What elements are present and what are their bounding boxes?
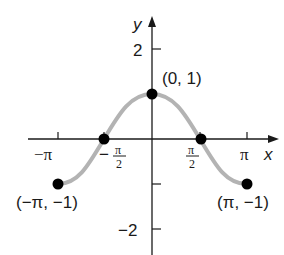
x-axis-arrow-icon: [268, 135, 279, 143]
point-zero: [147, 89, 158, 100]
x-tick-label-neg-half-num: π: [115, 143, 121, 157]
x-tick-label-pi: π: [240, 145, 249, 164]
x-tick-label-half-den: 2: [189, 157, 195, 171]
y-axis-label: y: [132, 15, 143, 34]
point-pi: [242, 179, 253, 190]
y-tick-label-2: 2: [133, 41, 142, 60]
x-tick-label-half-num: π: [188, 143, 194, 157]
x-tick-label-neg-half-den: 2: [116, 157, 122, 171]
x-axis-label: x: [263, 145, 273, 164]
cosine-graph: y x 2 −2 −π π − π 2 π 2 (0, 1) (−π, −1) …: [0, 0, 284, 255]
point-neg-half-pi: [99, 134, 110, 145]
point-label-left: (−π, −1): [16, 193, 78, 212]
point-half-pi: [196, 134, 207, 145]
y-tick-label-neg2: −2: [118, 221, 137, 240]
x-tick-label-neg-pi: −π: [34, 145, 53, 164]
y-axis-arrow-icon: [148, 16, 156, 27]
point-neg-pi: [53, 179, 64, 190]
point-label-top: (0, 1): [162, 69, 202, 88]
x-tick-label-neg-half-sign: −: [99, 145, 109, 164]
point-label-right: (π, −1): [217, 193, 269, 212]
